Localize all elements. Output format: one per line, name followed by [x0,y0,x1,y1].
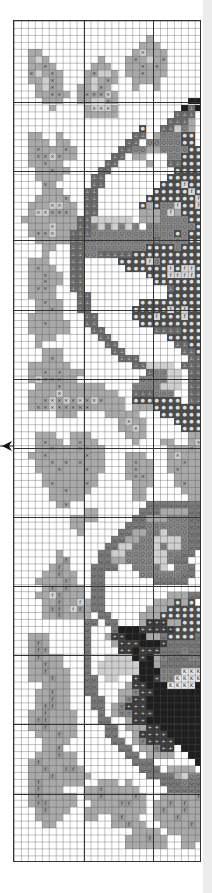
stitch-cell: ● [181,411,188,418]
stitch-cell: ● [188,341,195,348]
stitch-cell: ◡ [188,571,195,578]
stitch-cell [167,821,174,828]
stitch-cell [105,807,112,814]
stitch-cell [195,466,201,473]
stitch-cell: + [139,682,146,689]
stitch-cell: ⊥ [98,181,105,188]
stitch-cell [49,682,56,689]
stitch-cell [174,536,181,543]
stitch-cell [111,223,118,230]
stitch-cell [42,640,49,647]
stitch-cell [70,153,77,160]
stitch-cell: ○ [139,543,146,550]
stitch-cell [28,710,35,717]
stitch-cell [28,265,35,272]
stitch-cell [98,807,105,814]
stitch-cell [125,814,132,821]
stitch-cell [77,529,84,536]
stitch-cell: + [160,738,167,745]
stitch-cell: ● [146,272,153,279]
stitch-cell [77,487,84,494]
stitch-cell: ⊥ [174,341,181,348]
stitch-cell: ◡ [125,529,132,536]
stitch-cell: ● [195,181,201,188]
stitch-cell: × [105,91,112,98]
stitch-cell [21,216,28,223]
stitch-cell: ◡ [195,529,201,536]
stitch-cell [70,773,77,780]
stitch-cell [42,466,49,473]
stitch-cell [174,619,181,626]
stitch-cell: ⊥ [195,383,201,390]
stitch-cell: ⊥ [167,125,174,132]
stitch-cell [111,91,118,98]
stitch-cell: f [42,800,49,807]
stitch-cell: ◡ [146,759,153,766]
stitch-cell [146,661,153,668]
stitch-cell: ● [181,251,188,258]
stitch-cell: ● [195,188,201,195]
stitch-cell [181,821,188,828]
stitch-cell [195,696,201,703]
stitch-cell: f [35,779,42,786]
stitch-cell: × [42,230,49,237]
stitch-cell: × [181,459,188,466]
stitch-cell [42,578,49,585]
stitch-cell: × [56,466,63,473]
stitch-cell: ○ [181,522,188,529]
stitch-cell [28,668,35,675]
stitch-cell [56,459,63,466]
stitch-cell [118,216,125,223]
stitch-cell [167,689,174,696]
stitch-cell [160,564,167,571]
stitch-cell [91,404,98,411]
stitch-cell: ◡ [160,578,167,585]
stitch-cell: f [70,606,77,613]
stitch-cell [132,807,139,814]
stitch-cell [42,195,49,202]
stitch-cell [188,835,195,842]
stitch-cell: + [146,626,153,633]
stitch-cell [125,473,132,480]
stitch-cell [42,779,49,786]
stitch-cell: ⊥ [118,251,125,258]
stitch-cell [181,835,188,842]
stitch-cell: ◡ [167,779,174,786]
stitch-cell [28,272,35,279]
stitch-cell [28,661,35,668]
stitch-cell [28,779,35,786]
stitch-cell: ○ [132,543,139,550]
stitch-cell [63,592,70,599]
stitch-cell [42,738,49,745]
stitch-cell: ● [146,320,153,327]
stitch-cell [167,466,174,473]
stitch-cell [132,814,139,821]
stitch-cell: ⊥ [70,265,77,272]
stitch-cell [49,146,56,153]
stitch-cell: ● [146,265,153,272]
stitch-cell: ● [181,404,188,411]
stitch-cell: ◡ [125,745,132,752]
stitch-cell [181,842,188,849]
stitch-cell: ◡ [181,550,188,557]
stitch-cell [160,703,167,710]
stitch-cell: f [188,272,195,279]
stitch-cell [49,362,56,369]
stitch-cell: × [35,153,42,160]
stitch-cell [139,529,146,536]
stitch-cell: + [146,647,153,654]
stitch-cell: × [160,56,167,63]
stitch-cell [98,390,105,397]
stitch-cell [139,842,146,849]
stitch-cell [70,411,77,418]
stitch-cell: ● [188,606,195,613]
stitch-cell: ⊥ [188,369,195,376]
stitch-cell [132,439,139,446]
stitch-cell [195,800,201,807]
stitch-cell [160,835,167,842]
stitch-cell: ⊥ [70,278,77,285]
stitch-cell: ⊥ [188,390,195,397]
stitch-cell: f [174,202,181,209]
stitch-cell [56,800,63,807]
stitch-cell [42,786,49,793]
